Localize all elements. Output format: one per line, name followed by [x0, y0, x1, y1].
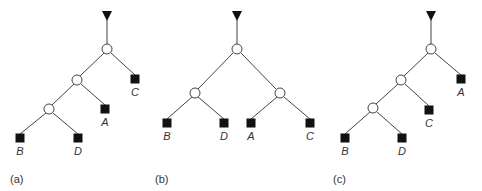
leaf-label: D	[220, 131, 228, 142]
leaf-label: B	[341, 146, 348, 157]
panel-caption-a: (a)	[10, 174, 23, 185]
leaf-label: D	[74, 146, 82, 157]
panel-caption-b: (b)	[155, 174, 168, 185]
tree-edge	[80, 53, 104, 76]
tree-edge	[241, 53, 276, 89]
tree-edge	[284, 97, 310, 119]
leaf-square-icon	[341, 134, 350, 143]
panel-caption-c: (c)	[333, 174, 346, 185]
tree-edge	[111, 53, 135, 75]
internal-node-circle-icon	[275, 88, 285, 98]
tree-edge	[81, 84, 105, 105]
internal-node-circle-icon	[102, 44, 112, 54]
tree-panel-b	[163, 11, 315, 128]
leaf-label: B	[16, 146, 23, 157]
internal-node-circle-icon	[232, 44, 242, 54]
tree-edge	[377, 112, 402, 134]
leaf-square-icon	[306, 119, 315, 128]
leaf-label: C	[306, 131, 314, 142]
root-triangle-icon	[102, 11, 112, 21]
tree-edge	[167, 97, 192, 119]
tree-edge	[345, 112, 370, 134]
phylogenetic-trees-figure: CABD(a)BDAC(b)ACBD(c)	[0, 0, 482, 191]
leaf-square-icon	[131, 75, 140, 84]
tree-edge	[198, 53, 233, 89]
tree-edge	[405, 84, 429, 106]
tree-edge	[251, 97, 277, 119]
internal-node-circle-icon	[72, 75, 82, 85]
leaf-square-icon	[163, 119, 172, 128]
leaf-square-icon	[101, 105, 110, 114]
leaf-square-icon	[398, 134, 407, 143]
tree-edge	[198, 97, 224, 119]
root-triangle-icon	[232, 11, 242, 21]
tree-edge	[404, 53, 428, 76]
internal-node-circle-icon	[396, 75, 406, 85]
tree-edge	[20, 113, 46, 134]
leaf-square-icon	[220, 119, 229, 128]
leaf-square-icon	[16, 134, 25, 143]
internal-node-circle-icon	[426, 44, 436, 54]
leaf-label: B	[163, 131, 170, 142]
tree-edge	[376, 84, 398, 104]
leaf-square-icon	[457, 75, 466, 84]
tree-edge	[52, 84, 74, 105]
leaf-square-icon	[74, 134, 83, 143]
leaf-label: A	[457, 87, 464, 98]
leaf-label: C	[131, 87, 139, 98]
leaf-square-icon	[247, 119, 256, 128]
tree-edge	[53, 113, 78, 134]
internal-node-circle-icon	[368, 103, 378, 113]
leaf-label: A	[247, 131, 254, 142]
internal-node-circle-icon	[190, 88, 200, 98]
tree-panel-a	[16, 11, 140, 143]
internal-node-circle-icon	[44, 104, 54, 114]
leaf-label: A	[101, 117, 108, 128]
leaf-label: C	[425, 118, 433, 129]
tree-edge	[435, 53, 461, 75]
leaf-label: D	[398, 146, 406, 157]
root-triangle-icon	[426, 11, 436, 21]
tree-panel-c	[341, 11, 466, 143]
leaf-square-icon	[425, 106, 434, 115]
trees-svg	[0, 0, 482, 191]
